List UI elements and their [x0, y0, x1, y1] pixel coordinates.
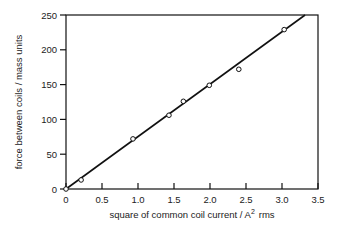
- x-axis-ticks: 00.51.01.52.02.53.03.5: [63, 183, 324, 205]
- y-tick-label: 200: [41, 44, 57, 55]
- y-axis-ticks: 050100150200250: [41, 10, 66, 195]
- x-tick-label: 3.5: [311, 194, 324, 205]
- x-tick-label: 0: [63, 194, 68, 205]
- y-tick-label: 100: [41, 114, 57, 125]
- y-tick-label: 250: [41, 10, 57, 21]
- x-axis-label: square of common coil current / A2rms: [109, 208, 274, 220]
- chart: 00.51.01.52.02.53.03.5 050100150200250 s…: [0, 0, 339, 238]
- data-point: [181, 99, 186, 104]
- y-tick-label: 150: [41, 79, 57, 90]
- y-tick-label: 0: [52, 184, 57, 195]
- x-tick-label: 2.0: [203, 194, 216, 205]
- x-tick-label: 3.0: [275, 194, 288, 205]
- y-axis-label: force between coils / mass units: [13, 34, 24, 169]
- data-point: [79, 178, 84, 183]
- plot-frame: [66, 15, 318, 189]
- y-tick-label: 50: [46, 149, 57, 160]
- data-point: [131, 137, 136, 142]
- data-point: [207, 83, 212, 88]
- x-tick-label: 1.0: [131, 194, 144, 205]
- data-point: [64, 187, 69, 192]
- data-point: [167, 113, 172, 118]
- data-point: [237, 67, 242, 72]
- x-tick-label: 1.5: [167, 194, 180, 205]
- x-tick-label: 0.5: [95, 194, 108, 205]
- x-tick-label: 2.5: [239, 194, 252, 205]
- data-point: [282, 27, 287, 32]
